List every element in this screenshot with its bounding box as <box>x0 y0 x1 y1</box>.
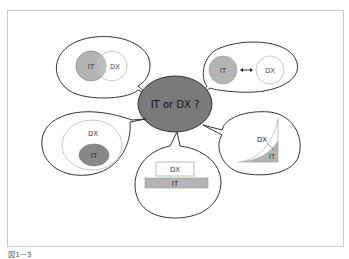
dx-label: DX <box>170 166 180 174</box>
bubble-contains: DX IT <box>42 112 146 176</box>
dx-label: DX <box>265 67 275 75</box>
center-question: IT or DX ? <box>138 76 212 132</box>
dx-label: DX <box>88 130 98 138</box>
dx-label: DX <box>257 136 267 144</box>
bubble-separate: IT DX <box>199 42 298 97</box>
it-label: IT <box>91 152 98 160</box>
it-dx-diagram: IT DX IT DX IT or DX ? DX IT DX IT <box>0 0 349 259</box>
bubble-foundation: DX IT <box>135 132 221 218</box>
it-label: IT <box>172 180 179 188</box>
it-label: IT <box>220 67 227 75</box>
it-label: IT <box>269 153 276 161</box>
figure-caption: 図1－3 <box>8 249 32 259</box>
bubble-growth: DX IT <box>203 112 300 175</box>
it-label: IT <box>88 63 95 71</box>
center-label: IT or DX ? <box>151 99 200 110</box>
dx-label: DX <box>110 63 120 71</box>
bubble-overlap: IT DX <box>56 37 150 98</box>
